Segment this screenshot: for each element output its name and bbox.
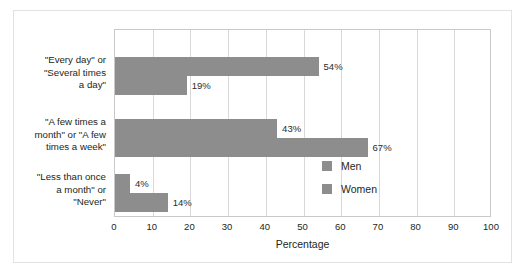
x-axis-title: Percentage [114, 238, 491, 250]
bar-women[interactable] [115, 138, 368, 157]
category-label: "Less than once a month" or "Never" [14, 171, 106, 209]
x-tick-label: 50 [297, 221, 308, 232]
bar-group: 43%67% [115, 119, 490, 157]
bar-value-label: 14% [168, 193, 192, 212]
plot-area: 54%19%43%67%4%14% [114, 29, 491, 217]
bar-group: 54%19% [115, 57, 490, 95]
bar-value-label: 4% [130, 174, 149, 193]
bar-value-label: 19% [187, 76, 211, 95]
bar-value-label: 43% [277, 119, 301, 138]
legend-label: Men [341, 160, 361, 172]
bar-women[interactable] [115, 193, 168, 212]
x-tick-label: 10 [146, 221, 157, 232]
x-tick-label: 60 [335, 221, 346, 232]
legend-label: Women [341, 183, 377, 195]
x-tick-label: 30 [222, 221, 233, 232]
legend-item-men[interactable]: Men [322, 156, 377, 175]
x-tick-label: 100 [483, 221, 499, 232]
x-tick-label: 90 [448, 221, 459, 232]
chart-legend: MenWomen [322, 156, 377, 202]
x-tick-label: 0 [111, 221, 116, 232]
bar-men[interactable] [115, 57, 319, 76]
bar-value-label: 67% [368, 138, 392, 157]
bar-value-label: 54% [319, 57, 343, 76]
bar-men[interactable] [115, 174, 130, 193]
x-tick-label: 20 [184, 221, 195, 232]
bar-group: 4%14% [115, 174, 490, 212]
legend-swatch-icon [322, 161, 332, 171]
x-tick-label: 70 [373, 221, 384, 232]
legend-swatch-icon [322, 184, 332, 194]
bar-women[interactable] [115, 76, 187, 95]
x-tick-label: 80 [410, 221, 421, 232]
category-label: "Every day" or "Several times a day" [14, 54, 106, 92]
chart-figure: 54%19%43%67%4%14% "Every day" or "Severa… [13, 10, 512, 263]
bar-men[interactable] [115, 119, 277, 138]
x-tick-label: 40 [260, 221, 271, 232]
legend-item-women[interactable]: Women [322, 179, 377, 198]
category-label: "A few times a month" or "A few times a … [14, 116, 106, 154]
